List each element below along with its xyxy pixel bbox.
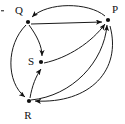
edge-s-to-p xyxy=(44,24,105,63)
node-label-s: S xyxy=(28,55,34,67)
node-dot-q xyxy=(26,20,30,24)
node-dot-r xyxy=(27,99,31,103)
node-label-r: R xyxy=(24,109,32,121)
graph-canvas: Q P S R xyxy=(0,0,125,124)
edge-q-to-p xyxy=(31,22,102,24)
edge-p-to-q xyxy=(32,6,105,17)
edge-r-to-s xyxy=(30,69,41,98)
node-label-p: P xyxy=(112,3,118,15)
edge-q-to-r xyxy=(11,25,26,97)
graph-diagram: Q P S R xyxy=(0,0,125,124)
edge-artifact-speck xyxy=(1,10,4,11)
node-label-q: Q xyxy=(15,4,23,16)
node-dot-p xyxy=(106,18,110,22)
node-dot-s xyxy=(39,60,43,64)
edge-p-to-r xyxy=(35,26,113,101)
edge-q-to-s xyxy=(29,25,42,56)
